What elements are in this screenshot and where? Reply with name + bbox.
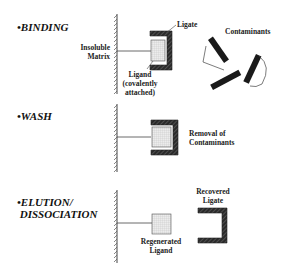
step-title-elution: •ELUTION/ DISSOCIATION: [17, 196, 97, 220]
binding-ligand: [151, 40, 165, 61]
label-removal-of-contaminants: Removal of Contaminants: [189, 129, 234, 147]
recovered-ligate: [198, 208, 227, 243]
label-contaminants: Contaminants: [225, 27, 270, 36]
diagram-graphics: [0, 0, 284, 271]
wash-matrix-wall: [114, 104, 117, 172]
label-ligand: Ligand (covalently attached): [120, 70, 160, 97]
regenerated-ligand: [152, 214, 171, 234]
step-title-wash: •WASH: [17, 110, 52, 122]
step-title-binding: •BINDING: [17, 21, 69, 33]
elution-matrix-wall: [114, 190, 117, 263]
label-recovered-ligate: Recovered Ligate: [190, 187, 236, 205]
label-regenerated-ligand: Regenerated Ligand: [138, 237, 184, 255]
label-insoluble-matrix: Insoluble Matrix: [66, 43, 110, 61]
affinity-chromatography-diagram: •BINDING •WASH •ELUTION/ DISSOCIATION In…: [0, 0, 284, 271]
contaminants-shapes: [203, 37, 266, 90]
wash-ligand: [152, 127, 171, 147]
binding-matrix-wall: [114, 14, 117, 94]
label-ligate: Ligate: [177, 20, 197, 29]
